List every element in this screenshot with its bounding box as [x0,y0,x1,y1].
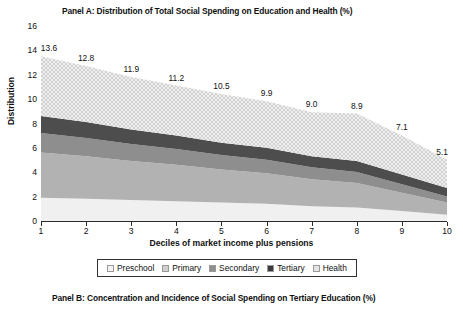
x-tick-label: 1 [39,226,44,236]
data-label: 5.1 [436,147,448,157]
legend-item-primary: Primary [162,263,201,273]
panel-a-title: Panel A: Distribution of Total Social Sp… [62,6,352,16]
y-tick-label: 6 [32,144,37,153]
y-axis-ticks: 0246810121416 [0,27,37,222]
y-tick-label: 2 [32,193,37,202]
x-tick-label: 9 [399,226,404,236]
data-label: 9.0 [306,99,318,109]
x-tick-label: 10 [442,226,452,236]
legend-item-health: Health [313,263,347,273]
data-label: 11.9 [123,64,139,74]
y-tick-label: 8 [32,120,37,129]
legend-label: Preschool [117,263,154,273]
x-tick-label: 8 [354,226,359,236]
x-tick-label: 6 [264,226,269,236]
legend-label: Primary [172,263,201,273]
panel-b-title: Panel B: Concentration and Incidence of … [52,293,376,303]
x-tick-label: 3 [129,226,134,236]
legend-swatch-icon [267,265,274,272]
x-axis-title: Deciles of market income plus pensions [0,238,463,248]
x-tick-label: 2 [84,226,89,236]
y-tick-label: 12 [27,71,37,80]
y-tick-label: 4 [32,168,37,177]
legend-item-tertiary: Tertiary [267,263,304,273]
legend-swatch-icon [162,265,169,272]
chart-figure: Panel A: Distribution of Total Social Sp… [0,0,463,313]
legend-label: Health [323,263,347,273]
legend-label: Secondary [219,263,259,273]
y-tick-label: 16 [27,22,37,31]
y-tick-label: 0 [32,217,37,226]
legend-swatch-icon [209,265,216,272]
data-label: 9.9 [261,88,273,98]
data-label: 10.5 [213,81,229,91]
chart-legend: PreschoolPrimarySecondaryTertiaryHealth [97,259,357,277]
x-axis-ticks: 12345678910 [41,222,447,238]
x-tick-label: 4 [174,226,179,236]
legend-swatch-icon [107,265,114,272]
x-tick-label: 5 [219,226,224,236]
y-tick-label: 14 [27,46,37,55]
data-label: 8.9 [351,101,363,111]
data-label: 12.8 [78,53,94,63]
legend-swatch-icon [313,265,320,272]
data-label: 13.6 [41,43,57,53]
data-label: 7.1 [396,122,408,132]
x-tick-label: 7 [309,226,314,236]
data-label: 11.2 [168,73,184,83]
legend-label: Tertiary [277,263,304,273]
y-tick-label: 10 [27,95,37,104]
legend-item-preschool: Preschool [107,263,154,273]
stacked-area-series [41,27,447,222]
plot-area [41,27,447,222]
legend-item-secondary: Secondary [209,263,259,273]
